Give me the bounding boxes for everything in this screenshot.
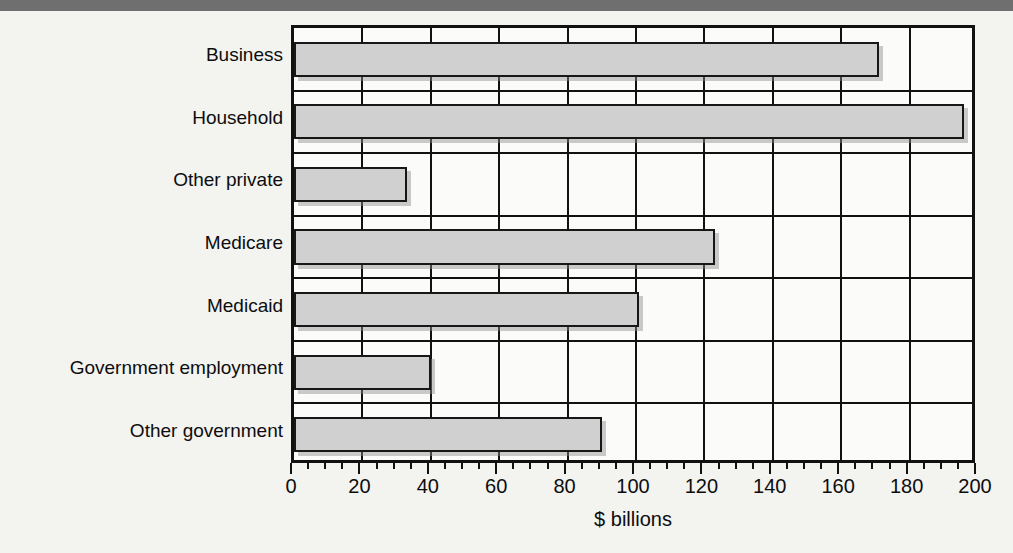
minor-tick-145 xyxy=(786,463,788,469)
minor-tick-115 xyxy=(683,463,685,469)
minor-tick-195 xyxy=(957,463,959,469)
minor-tick-70 xyxy=(529,463,531,469)
major-tick-20 xyxy=(358,463,360,474)
major-tick-140 xyxy=(769,463,771,474)
minor-tick-5 xyxy=(307,463,309,469)
figure-background: BusinessHouseholdOther privateMedicareMe… xyxy=(0,0,1013,553)
minor-tick-35 xyxy=(410,463,412,469)
minor-tick-165 xyxy=(854,463,856,469)
major-tick-80 xyxy=(564,463,566,474)
x-tick-label-140: 140 xyxy=(753,475,786,498)
major-tick-200 xyxy=(974,463,976,474)
bar-row xyxy=(294,403,972,466)
x-tick-label-120: 120 xyxy=(685,475,718,498)
major-tick-100 xyxy=(632,463,634,474)
minor-tick-45 xyxy=(444,463,446,469)
bar-business[interactable] xyxy=(294,42,879,77)
x-axis-ticks xyxy=(291,463,975,475)
bar-row xyxy=(294,216,972,279)
major-tick-180 xyxy=(906,463,908,474)
bar-medicaid[interactable] xyxy=(294,292,639,327)
bar-government-employment[interactable] xyxy=(294,355,431,390)
category-label-other-private: Other private xyxy=(1,169,283,191)
bar-row xyxy=(294,91,972,154)
x-axis-title: $ billions xyxy=(291,508,975,531)
x-tick-label-160: 160 xyxy=(822,475,855,498)
minor-tick-170 xyxy=(871,463,873,469)
x-tick-label-60: 60 xyxy=(485,475,507,498)
bar-other-government[interactable] xyxy=(294,417,602,452)
minor-tick-65 xyxy=(512,463,514,469)
minor-tick-95 xyxy=(615,463,617,469)
minor-tick-90 xyxy=(598,463,600,469)
minor-tick-125 xyxy=(718,463,720,469)
bar-household[interactable] xyxy=(294,104,964,139)
category-label-government-employment: Government employment xyxy=(1,357,283,379)
x-tick-label-40: 40 xyxy=(417,475,439,498)
major-tick-160 xyxy=(837,463,839,474)
major-tick-0 xyxy=(290,463,292,474)
minor-tick-10 xyxy=(324,463,326,469)
minor-tick-75 xyxy=(547,463,549,469)
bar-row xyxy=(294,28,972,91)
x-tick-label-20: 20 xyxy=(348,475,370,498)
bar-row xyxy=(294,278,972,341)
minor-tick-30 xyxy=(393,463,395,469)
category-label-business: Business xyxy=(1,44,283,66)
minor-tick-50 xyxy=(461,463,463,469)
bar-medicare[interactable] xyxy=(294,229,715,264)
minor-tick-185 xyxy=(923,463,925,469)
plot-area xyxy=(291,25,975,463)
category-axis-labels: BusinessHouseholdOther privateMedicareMe… xyxy=(0,25,283,463)
category-label-medicaid: Medicaid xyxy=(1,295,283,317)
major-tick-40 xyxy=(427,463,429,474)
minor-tick-155 xyxy=(820,463,822,469)
bar-other-private[interactable] xyxy=(294,167,407,202)
bar-chart: BusinessHouseholdOther privateMedicareMe… xyxy=(0,11,1013,553)
major-tick-60 xyxy=(495,463,497,474)
minor-tick-105 xyxy=(649,463,651,469)
minor-tick-190 xyxy=(940,463,942,469)
minor-tick-110 xyxy=(666,463,668,469)
x-tick-label-200: 200 xyxy=(958,475,991,498)
x-tick-label-100: 100 xyxy=(616,475,649,498)
page-top-strip xyxy=(0,0,1013,11)
x-tick-label-80: 80 xyxy=(553,475,575,498)
x-tick-label-0: 0 xyxy=(285,475,296,498)
minor-tick-55 xyxy=(478,463,480,469)
category-label-household: Household xyxy=(1,107,283,129)
minor-tick-175 xyxy=(889,463,891,469)
minor-tick-130 xyxy=(735,463,737,469)
category-label-other-government: Other government xyxy=(1,420,283,442)
major-tick-120 xyxy=(700,463,702,474)
minor-tick-85 xyxy=(581,463,583,469)
x-axis-tick-labels: 020406080100120140160180200 xyxy=(291,475,975,505)
bar-row xyxy=(294,153,972,216)
minor-tick-25 xyxy=(376,463,378,469)
bar-row xyxy=(294,341,972,404)
minor-tick-15 xyxy=(341,463,343,469)
minor-tick-150 xyxy=(803,463,805,469)
x-tick-label-180: 180 xyxy=(890,475,923,498)
minor-tick-135 xyxy=(752,463,754,469)
category-label-medicare: Medicare xyxy=(1,232,283,254)
